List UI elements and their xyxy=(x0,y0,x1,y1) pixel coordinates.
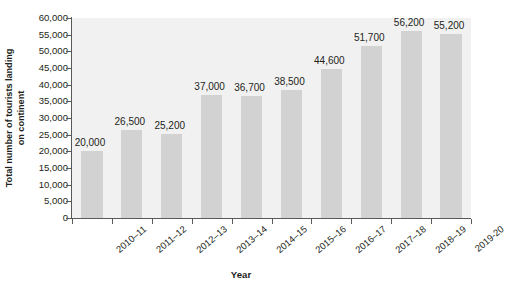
x-axis-tick-mark xyxy=(112,219,113,224)
y-axis-tick-label: 15,000 xyxy=(28,163,68,173)
bar-value-label: 51,700 xyxy=(346,33,392,43)
x-axis-tick-mark xyxy=(192,219,193,224)
y-axis-tick-label: 25,000 xyxy=(28,130,68,140)
y-axis-title-line-2: on continent xyxy=(15,49,27,188)
bar xyxy=(121,130,142,218)
x-axis-tick-mark xyxy=(431,219,432,224)
x-axis-tick-mark xyxy=(391,219,392,224)
x-axis-tick-label: 2011–12 xyxy=(154,224,187,254)
bar xyxy=(201,95,222,218)
x-axis-title: Year xyxy=(0,269,482,280)
bar xyxy=(161,134,182,218)
x-axis-tick-label: 2010–11 xyxy=(114,224,147,254)
x-axis-tick-label: 2013–14 xyxy=(234,224,268,255)
y-axis-tick-label: 60,000 xyxy=(28,13,68,23)
y-axis-tick-label: 5,000 xyxy=(28,196,68,206)
bar-value-label: 55,200 xyxy=(426,21,472,31)
bar xyxy=(321,69,342,218)
bar-value-label: 44,600 xyxy=(306,56,352,66)
x-axis-tick-mark xyxy=(272,219,273,224)
x-axis-tick-label: 2016–17 xyxy=(354,224,388,255)
bar-value-label: 38,500 xyxy=(266,77,312,87)
y-axis-tick-label: 0 xyxy=(28,213,68,223)
bar-value-label: 25,200 xyxy=(147,121,193,131)
y-axis-line xyxy=(71,17,72,219)
y-axis-tick-label: 40,000 xyxy=(28,80,68,90)
bar xyxy=(440,34,461,218)
y-axis-title-line-1: Total number of tourists landing xyxy=(4,49,16,188)
y-axis-tick-label: 10,000 xyxy=(28,180,68,190)
x-axis-line xyxy=(71,218,471,219)
y-axis-title: Total number of tourists landing on cont… xyxy=(0,18,30,218)
y-axis-tick-label: 35,000 xyxy=(28,96,68,106)
bar xyxy=(281,90,302,218)
x-axis-tick-mark xyxy=(152,219,153,224)
bar xyxy=(361,46,382,218)
bar-value-label: 20,000 xyxy=(67,138,113,148)
bar xyxy=(401,31,422,218)
x-axis-tick-mark xyxy=(72,219,73,224)
x-axis-tick-label: 2012–13 xyxy=(194,224,228,255)
y-axis-tick-label: 30,000 xyxy=(28,113,68,123)
bar xyxy=(241,96,262,218)
y-axis-tick-label: 45,000 xyxy=(28,63,68,73)
x-axis-tick-label: 2014–15 xyxy=(274,224,308,255)
x-axis-tick-mark xyxy=(351,219,352,224)
x-axis-tick-mark xyxy=(471,219,472,224)
x-axis-tick-label: 2017–18 xyxy=(394,224,428,255)
x-axis-tick-label: 2018–19 xyxy=(434,224,468,255)
y-axis-tick-label: 55,000 xyxy=(28,30,68,40)
y-axis-tick-label: 50,000 xyxy=(28,46,68,56)
x-axis-tick-mark xyxy=(232,219,233,224)
y-axis-tick-labels: 05,00010,00015,00020,00025,00030,00035,0… xyxy=(28,0,68,295)
x-axis-tick-label: 2019-20 xyxy=(473,224,505,253)
bar xyxy=(81,151,102,218)
x-axis-tick-label: 2015–16 xyxy=(314,224,348,255)
x-axis-tick-mark xyxy=(311,219,312,224)
y-axis-tick-label: 20,000 xyxy=(28,146,68,156)
